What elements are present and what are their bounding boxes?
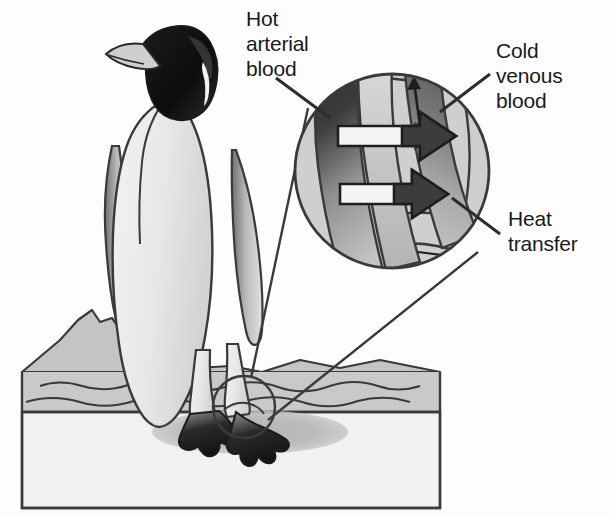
label-cold-venous-blood: Cold venous blood bbox=[496, 38, 563, 113]
label-heat-transfer: Heat transfer bbox=[508, 206, 578, 256]
magnifier bbox=[290, 58, 508, 294]
pointer-hot-arterial bbox=[276, 78, 330, 118]
figure-canvas: Hot arterial blood Cold venous blood Hea… bbox=[0, 0, 610, 516]
label-hot-arterial-blood: Hot arterial blood bbox=[246, 6, 309, 81]
penguin-right-flipper bbox=[232, 150, 263, 345]
tissue-contour-right-4 bbox=[386, 271, 472, 286]
